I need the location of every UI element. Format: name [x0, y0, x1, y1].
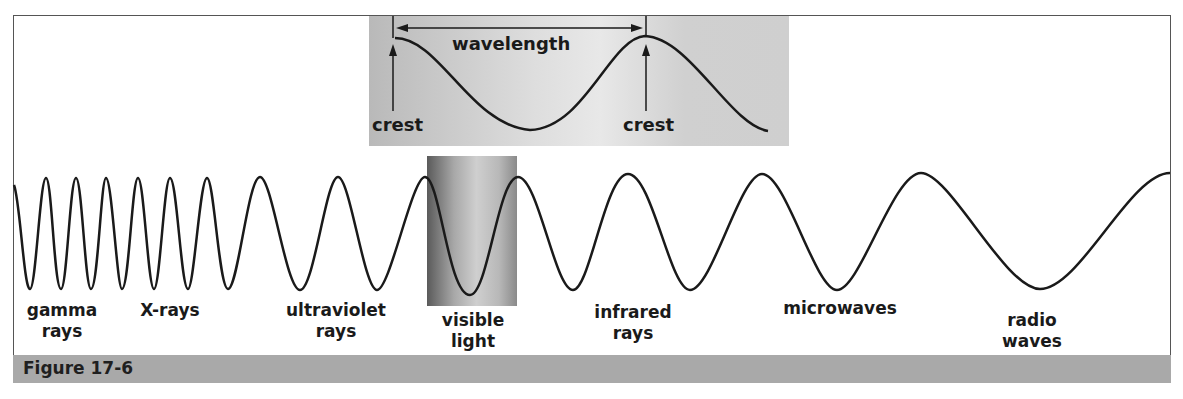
- arrowhead-right-icon: [631, 24, 643, 32]
- arrowhead-left-icon: [396, 24, 408, 32]
- label-radio-waves: radio waves: [1002, 310, 1062, 352]
- label-visible-light: visible light: [442, 310, 504, 352]
- figure-caption: Figure 17-6: [23, 358, 133, 378]
- label-microwaves: microwaves: [783, 298, 897, 319]
- crest-arrowhead-left-icon: [389, 44, 397, 56]
- crest-label-left: crest: [372, 114, 423, 135]
- caption-bar: Figure 17-6: [13, 355, 1171, 383]
- label-gamma-rays: gamma rays: [27, 300, 98, 342]
- label-infrared-rays: infrared rays: [594, 302, 671, 344]
- spectrum-wave: [14, 173, 1170, 295]
- crest-arrowhead-right-icon: [642, 44, 650, 56]
- inset-wave: [395, 36, 768, 131]
- crest-label-right: crest: [623, 114, 674, 135]
- wavelength-label: wavelength: [452, 33, 570, 54]
- label-ultraviolet-rays: ultraviolet rays: [286, 300, 386, 342]
- label-x-rays: X-rays: [140, 300, 199, 321]
